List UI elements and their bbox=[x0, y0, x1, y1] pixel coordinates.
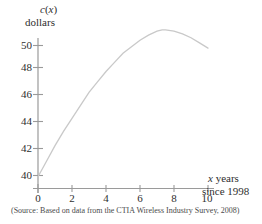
y-tick-label: 42 bbox=[14, 142, 32, 154]
source-note: (Source: Based on data from the CTIA Wir… bbox=[11, 206, 240, 215]
y-tick-label: 40 bbox=[14, 169, 32, 181]
x-tick-label: 6 bbox=[132, 192, 148, 204]
y-tick-label: 46 bbox=[14, 88, 32, 100]
x-tick-label: 10 bbox=[199, 192, 215, 204]
y-tick-label: 48 bbox=[14, 61, 32, 73]
y-axis-title-function: c(x) bbox=[40, 3, 57, 16]
y-axis-func-close: ) bbox=[53, 3, 57, 15]
data-curve bbox=[38, 30, 208, 177]
y-tick-label: 44 bbox=[14, 115, 32, 127]
x-axis-title-years: x years bbox=[208, 172, 239, 185]
x-axis-var: x bbox=[208, 172, 213, 184]
y-tick-label: 50 bbox=[14, 39, 32, 51]
x-tick-label: 0 bbox=[30, 192, 46, 204]
x-axis-years-word: years bbox=[216, 172, 239, 184]
x-tick-label: 8 bbox=[166, 192, 182, 204]
chart-figure: c(x) dollars x years since 1998 50 48 46… bbox=[0, 0, 262, 224]
x-tick-label: 4 bbox=[98, 192, 114, 204]
y-axis-title-units: dollars bbox=[25, 16, 55, 29]
x-tick-label: 2 bbox=[64, 192, 80, 204]
